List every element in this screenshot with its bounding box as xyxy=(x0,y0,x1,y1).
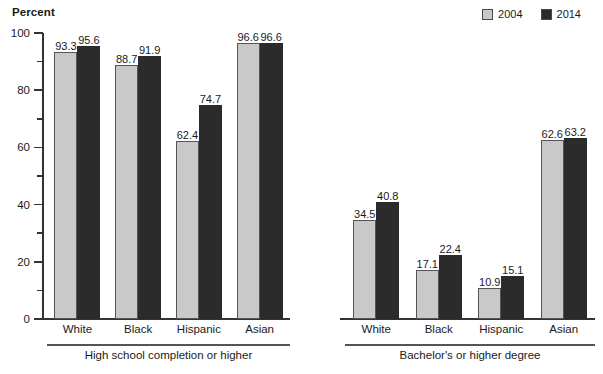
category-label-hispanic: Hispanic xyxy=(479,323,523,335)
y-tick-100 xyxy=(34,32,43,34)
bar-value-label: 10.9 xyxy=(479,276,500,288)
y-minor-tick-70 xyxy=(37,118,43,120)
bar-value-label: 95.6 xyxy=(78,34,99,46)
bar-asian-2014[interactable]: 63.2 xyxy=(564,138,587,319)
bar-black-2004[interactable]: 17.1 xyxy=(416,270,439,319)
y-tick-label-80: 80 xyxy=(0,84,30,96)
category-label-asian: Asian xyxy=(549,323,578,335)
bar-hispanic-2014[interactable]: 74.7 xyxy=(199,105,222,319)
bar-value-label: 17.1 xyxy=(417,258,438,270)
group-label: High school completion or higher xyxy=(85,349,252,361)
category-label-white: White xyxy=(63,323,92,335)
y-minor-tick-10 xyxy=(37,290,43,292)
bar-value-label: 15.1 xyxy=(502,264,523,276)
y-tick-label-100: 100 xyxy=(0,27,30,39)
y-minor-tick-50 xyxy=(37,175,43,177)
y-tick-label-60: 60 xyxy=(0,141,30,153)
y-tick-label-40: 40 xyxy=(0,199,30,211)
category-label-white: White xyxy=(362,323,391,335)
bar-hispanic-2014[interactable]: 15.1 xyxy=(501,276,524,319)
category-label-asian: Asian xyxy=(245,323,274,335)
category-label-hispanic: Hispanic xyxy=(177,323,221,335)
bar-value-label: 74.7 xyxy=(200,93,221,105)
bar-value-label: 96.6 xyxy=(260,31,281,43)
bar-hispanic-2004[interactable]: 62.4 xyxy=(176,141,199,319)
bar-value-label: 62.6 xyxy=(542,128,563,140)
bar-black-2014[interactable]: 91.9 xyxy=(138,56,161,319)
y-tick-label-20: 20 xyxy=(0,256,30,268)
bar-black-2004[interactable]: 88.7 xyxy=(115,65,138,319)
bar-white-2004[interactable]: 34.5 xyxy=(353,220,376,319)
category-label-black: Black xyxy=(124,323,152,335)
bar-white-2014[interactable]: 40.8 xyxy=(376,202,399,319)
bar-asian-2014[interactable]: 96.6 xyxy=(260,43,283,319)
bar-value-label: 40.8 xyxy=(377,190,398,202)
bar-value-label: 22.4 xyxy=(440,243,461,255)
category-label-black: Black xyxy=(425,323,453,335)
bar-value-label: 88.7 xyxy=(116,53,137,65)
y-tick-80 xyxy=(34,89,43,91)
bar-white-2004[interactable]: 93.3 xyxy=(54,52,77,319)
y-tick-20 xyxy=(34,261,43,263)
bar-value-label: 62.4 xyxy=(177,129,198,141)
group-label: Bachelor's or higher degree xyxy=(400,349,541,361)
plot-area: 020406080100 93.395.6White88.791.9Black6… xyxy=(0,0,603,374)
bar-value-label: 96.6 xyxy=(237,31,258,43)
bar-white-2014[interactable]: 95.6 xyxy=(77,46,100,319)
y-minor-tick-90 xyxy=(37,61,43,63)
group-rule xyxy=(47,344,290,346)
bar-black-2014[interactable]: 22.4 xyxy=(439,255,462,319)
bar-asian-2004[interactable]: 62.6 xyxy=(541,140,564,319)
y-minor-tick-30 xyxy=(37,232,43,234)
y-tick-40 xyxy=(34,204,43,206)
y-tick-label-0: 0 xyxy=(0,313,30,325)
bar-value-label: 34.5 xyxy=(354,208,375,220)
bar-value-label: 91.9 xyxy=(139,44,160,56)
bar-value-label: 63.2 xyxy=(565,126,586,138)
y-tick-60 xyxy=(34,147,43,149)
bar-hispanic-2004[interactable]: 10.9 xyxy=(478,288,501,319)
bar-value-label: 93.3 xyxy=(55,40,76,52)
group-rule xyxy=(345,344,595,346)
bar-asian-2004[interactable]: 96.6 xyxy=(237,43,260,319)
